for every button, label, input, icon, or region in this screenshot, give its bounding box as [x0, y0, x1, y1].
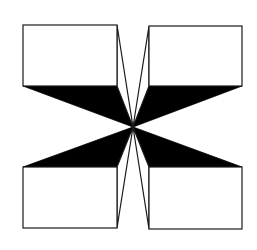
shadow-top-right [133, 86, 242, 127]
shadow-bottom-right [133, 127, 242, 167]
box-top-right [149, 26, 242, 86]
box-top-left [23, 25, 117, 86]
shadow-bottom-left [23, 127, 133, 167]
shadow-top-left [23, 86, 133, 127]
box-bottom-left [23, 167, 117, 228]
box-bottom-right [149, 167, 242, 229]
illusion-figure [0, 0, 257, 250]
